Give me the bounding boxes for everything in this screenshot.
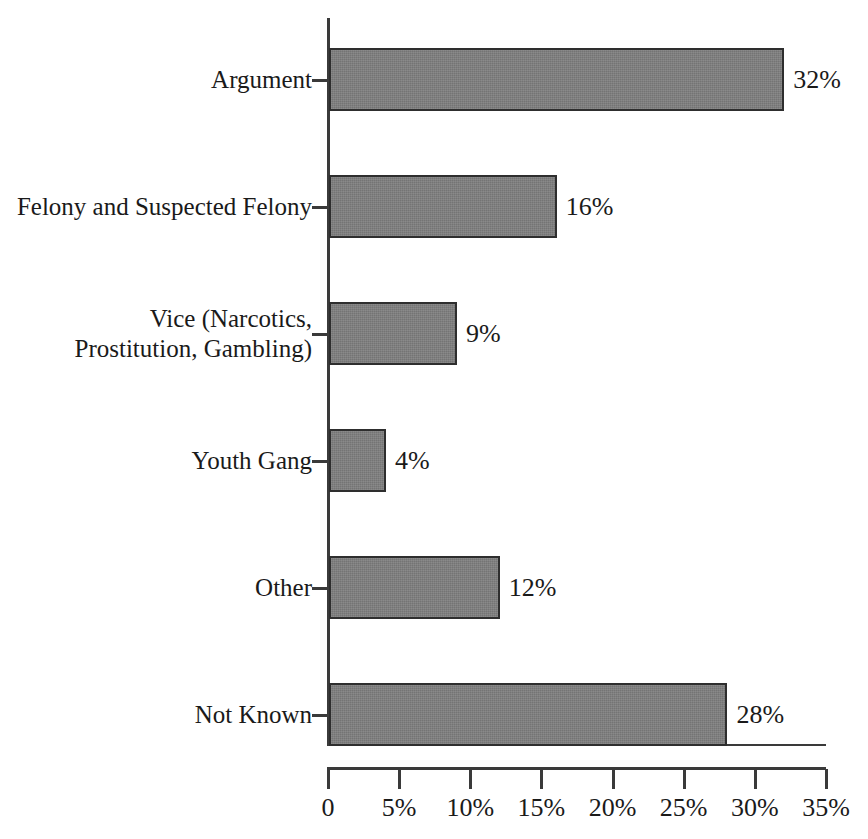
bar-value-label: 12% [509, 573, 557, 603]
x-axis-line [327, 767, 826, 770]
x-axis-tick-label: 25% [660, 793, 708, 823]
y-axis-tick [312, 587, 328, 590]
x-axis-tick [612, 769, 615, 789]
x-axis-tick-label: 0 [322, 793, 335, 823]
bar [329, 48, 784, 111]
bar [329, 302, 457, 365]
x-axis-tick-label: 5% [382, 793, 417, 823]
bar [329, 429, 386, 492]
y-axis-tick [312, 333, 328, 336]
category-label: Argument [211, 65, 312, 95]
x-axis-tick-label: 15% [518, 793, 566, 823]
y-axis-tick [312, 460, 328, 463]
bar-value-label: 9% [466, 319, 501, 349]
category-label: Not Known [195, 700, 312, 730]
x-axis-tick-label: 30% [731, 793, 779, 823]
category-label-line: Argument [211, 66, 312, 93]
y-axis-line [327, 18, 330, 746]
x-axis-tick [327, 769, 330, 789]
x-axis-tick [398, 769, 401, 789]
bar-value-label: 4% [395, 446, 430, 476]
category-label: Vice (Narcotics,Prostitution, Gambling) [75, 304, 313, 364]
chart-page: 05%10%15%20%25%30%35% ArgumentFelony and… [0, 0, 868, 839]
bar-value-label: 32% [793, 65, 841, 95]
category-label-line: Vice (Narcotics, [150, 305, 312, 332]
category-label: Felony and Suspected Felony [17, 192, 312, 222]
bar-chart: 05%10%15%20%25%30%35% ArgumentFelony and… [0, 0, 868, 839]
category-label-line: Youth Gang [192, 447, 312, 474]
y-axis-tick [312, 79, 328, 82]
x-axis-tick [825, 769, 828, 789]
x-axis-tick [469, 769, 472, 789]
x-axis-tick-label: 10% [446, 793, 494, 823]
x-axis-tick [754, 769, 757, 789]
bar [329, 556, 500, 619]
category-label-line: Prostitution, Gambling) [75, 334, 313, 364]
bar-value-label: 28% [736, 700, 784, 730]
y-axis-tick [312, 206, 328, 209]
category-label-line: Not Known [195, 701, 312, 728]
x-axis-tick [540, 769, 543, 789]
bar [329, 175, 557, 238]
category-label: Other [255, 573, 312, 603]
category-label-line: Other [255, 574, 312, 601]
y-axis-tick [312, 714, 328, 717]
x-axis-tick-label: 20% [589, 793, 637, 823]
category-label-line: Felony and Suspected Felony [17, 193, 312, 220]
x-axis-tick [683, 769, 686, 789]
category-label: Youth Gang [192, 446, 312, 476]
bar [329, 683, 727, 746]
bar-value-label: 16% [566, 192, 614, 222]
x-axis-tick-label: 35% [802, 793, 850, 823]
